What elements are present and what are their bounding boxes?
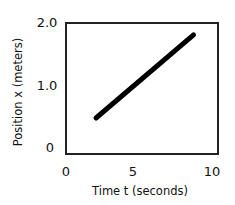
y-axis-label: Position x (meters) [11, 38, 25, 146]
y-tick-1: 1.0 [37, 78, 58, 93]
x-axis-label: Time t (seconds) [91, 184, 188, 198]
y-tick-0: 0 [46, 140, 54, 155]
data-line [96, 35, 194, 118]
x-tick-0: 0 [62, 164, 70, 179]
x-tick-10: 10 [204, 164, 221, 179]
plot-frame [66, 23, 218, 154]
x-tick-5: 5 [129, 164, 137, 179]
chart: 0 5 10 0 1.0 2.0 Time t (seconds) Positi… [0, 0, 235, 205]
y-tick-2: 2.0 [37, 15, 58, 30]
